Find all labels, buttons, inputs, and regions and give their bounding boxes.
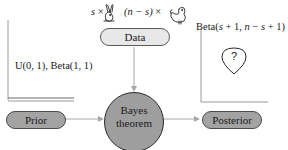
beta-suffix: + 1) [265,21,285,32]
times-symbol: × [155,6,161,17]
hen-count-var: (n − s) × [124,6,161,17]
n-minus-s-variable: (n − s) [124,6,153,17]
posterior-distribution-label: Beta(s + 1, n − s + 1) [196,21,285,32]
hen-icon [170,7,185,24]
bayes-label-line1: Bayes [116,104,152,117]
bayes-label-line2: theorem [116,117,152,130]
data-node[interactable]: Data [100,28,170,46]
plus-one: + 1, [223,21,245,32]
s-variable: s [91,6,95,17]
prior-node[interactable]: Prior [6,111,66,129]
bayes-to-posterior-arrowhead [194,116,200,122]
minus-sign: − [250,21,261,32]
prior-node-label: Prior [25,114,47,126]
posterior-question-mark: ? [229,50,239,62]
rabbit-count-var: s × [91,6,104,17]
bayes-theorem-node[interactable]: Bayes theorem [104,92,164,150]
rabbit-icon [104,5,114,22]
beta-prefix: Beta( [196,21,219,32]
prior-distribution-label: U(0, 1), Beta(1, 1) [15,60,93,71]
times-symbol: × [98,6,104,17]
posterior-node-label: Posterior [212,114,252,126]
data-node-label: Data [125,31,146,43]
posterior-node[interactable]: Posterior [202,111,262,129]
